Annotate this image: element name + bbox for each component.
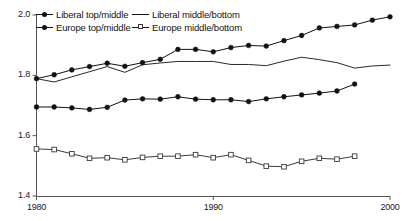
data-point-marker xyxy=(105,61,110,66)
data-point-marker xyxy=(352,23,357,28)
data-point-marker xyxy=(105,105,110,110)
data-point-marker xyxy=(211,155,216,160)
data-point-marker xyxy=(122,64,127,69)
data-point-marker xyxy=(282,38,287,43)
data-point-marker xyxy=(52,147,57,152)
data-point-marker xyxy=(140,60,145,65)
data-point-marker xyxy=(246,158,251,163)
data-point-marker xyxy=(52,72,57,77)
data-point-marker xyxy=(388,14,393,19)
data-point-marker xyxy=(352,154,357,159)
y-tick-label: 2.0 xyxy=(2,9,30,19)
data-point-marker xyxy=(52,105,57,110)
x-tick-label: 1980 xyxy=(17,202,57,212)
axis-lines xyxy=(37,15,391,197)
data-point-marker xyxy=(193,47,198,52)
data-point-marker xyxy=(158,57,163,62)
data-point-marker xyxy=(282,164,287,169)
data-point-marker xyxy=(229,45,234,50)
y-tick-label: 1.8 xyxy=(2,69,30,79)
data-point-marker xyxy=(282,94,287,99)
data-point-marker xyxy=(211,97,216,102)
data-point-marker xyxy=(122,98,127,103)
legend-label: Liberal top/middle xyxy=(56,9,128,20)
data-point-marker xyxy=(246,43,251,48)
legend-entry-liberal-middle-bottom: Liberal middle/bottom xyxy=(132,8,286,21)
data-point-marker xyxy=(193,152,198,157)
legend-label: Europe top/middle xyxy=(56,22,131,33)
line-chart: 1.41.61.82.0 198019902000 Liberal top/mi… xyxy=(0,0,404,221)
data-point-marker xyxy=(105,155,110,160)
data-point-marker xyxy=(264,44,269,49)
legend-entry-europe-middle-bottom: Europe middle/bottom xyxy=(132,21,286,34)
data-point-marker xyxy=(140,96,145,101)
data-point-marker xyxy=(87,156,92,161)
data-point-marker xyxy=(176,47,181,52)
data-point-marker xyxy=(229,152,234,157)
x-tick-label: 1990 xyxy=(193,202,233,212)
data-point-marker xyxy=(264,164,269,169)
series-europe-middle-bottom xyxy=(34,147,357,169)
chart-legend: Liberal top/middleLiberal middle/bottomE… xyxy=(36,8,286,34)
data-point-marker xyxy=(87,64,92,69)
series-liberal-top-middle xyxy=(34,82,357,112)
data-point-marker xyxy=(211,49,216,54)
data-point-marker xyxy=(317,91,322,96)
data-point-marker xyxy=(370,18,375,23)
y-tick-label: 1.6 xyxy=(2,130,30,140)
data-point-marker xyxy=(229,97,234,102)
data-series-layer xyxy=(34,14,392,169)
data-point-marker xyxy=(176,94,181,99)
data-point-marker xyxy=(299,93,304,98)
series-line xyxy=(37,57,391,82)
data-point-marker xyxy=(70,151,75,156)
data-point-marker xyxy=(193,97,198,102)
data-point-marker xyxy=(34,105,39,110)
open-square-marker-icon xyxy=(132,23,149,32)
y-tick-label: 1.4 xyxy=(2,190,30,200)
legend-entry-liberal-top-middle: Liberal top/middle xyxy=(36,8,128,21)
legend-entry-europe-top-middle: Europe top/middle xyxy=(36,21,128,34)
filled-circle-marker-icon xyxy=(36,10,53,19)
legend-label: Liberal middle/bottom xyxy=(152,9,240,20)
series-line xyxy=(37,149,355,167)
filled-circle-marker-icon xyxy=(36,23,53,32)
data-point-marker xyxy=(34,147,39,152)
data-point-marker xyxy=(317,156,322,161)
data-point-marker xyxy=(123,158,128,163)
data-point-marker xyxy=(335,89,340,94)
legend-label: Europe middle/bottom xyxy=(152,22,242,33)
plain-line-marker-icon xyxy=(132,10,149,19)
data-point-marker xyxy=(335,24,340,29)
data-point-marker xyxy=(34,76,39,81)
series-liberal-middle-bottom xyxy=(37,57,391,82)
data-point-marker xyxy=(299,33,304,38)
data-point-marker xyxy=(158,154,163,159)
data-point-marker xyxy=(264,96,269,101)
data-point-marker xyxy=(299,159,304,164)
x-tick-label: 2000 xyxy=(370,202,404,212)
data-point-marker xyxy=(176,154,181,159)
data-point-marker xyxy=(69,106,74,111)
data-point-marker xyxy=(69,68,74,73)
data-point-marker xyxy=(246,99,251,104)
data-point-marker xyxy=(140,155,145,160)
data-point-marker xyxy=(87,107,92,112)
data-point-marker xyxy=(158,97,163,102)
data-point-marker xyxy=(352,82,357,87)
data-point-marker xyxy=(317,26,322,31)
data-point-marker xyxy=(335,157,340,162)
